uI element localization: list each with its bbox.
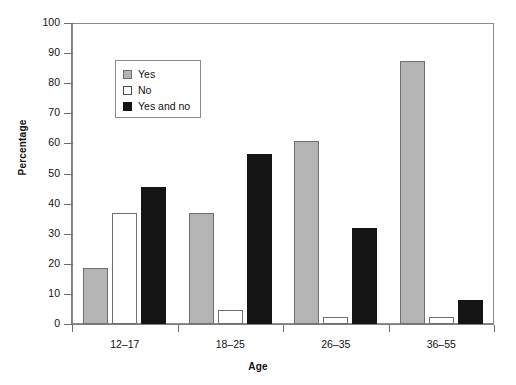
y-tick-label-50: 50 [22,167,60,179]
bar-26-35-no [323,317,348,324]
x-tick-0 [72,325,73,332]
legend-swatch-yes-icon [123,70,132,79]
bar-12-17-yes [83,268,108,324]
bar-chart: Percentage 0102030405060708090100 12–171… [0,0,516,385]
bar-12-17-no [112,213,137,324]
bar-26-35-yes-and-no [352,228,377,324]
legend-label-yes: Yes [138,68,155,80]
bar-36-55-yes [400,61,425,324]
x-tick-label-2: 26–35 [291,338,381,350]
y-tick-label-80: 80 [22,76,60,88]
bar-18-25-yes [189,213,214,324]
y-tick-label-10: 10 [22,287,60,299]
bar-12-17-yes-and-no [141,187,166,324]
y-tick-label-70: 70 [22,106,60,118]
bar-18-25-no [218,310,243,324]
bar-18-25-yes-and-no [247,154,272,324]
y-tick-label-0: 0 [22,317,60,329]
x-tick-label-3: 36–55 [396,338,486,350]
y-tick-label-90: 90 [22,46,60,58]
y-tick-label-20: 20 [22,257,60,269]
x-tick-end [494,325,495,332]
legend-swatch-yes-and-no-icon [123,102,132,111]
legend-item-yes-and-no: Yes and no [123,98,194,114]
x-tick-label-0: 12–17 [80,338,170,350]
x-tick-2 [283,325,284,332]
x-tick-1 [178,325,179,332]
x-tick-3 [389,325,390,332]
y-tick-label-30: 30 [22,227,60,239]
legend: Yes No Yes and no [115,60,201,118]
y-tick-label-40: 40 [22,197,60,209]
x-axis-title: Age [0,361,516,372]
bar-36-55-yes-and-no [458,300,483,324]
y-tick-label-60: 60 [22,136,60,148]
bar-36-55-no [429,317,454,324]
x-tick-label-1: 18–25 [185,338,275,350]
bar-26-35-yes [294,141,319,324]
y-tick-label-100: 100 [22,16,60,28]
legend-item-no: No [123,82,194,98]
legend-label-yes-and-no: Yes and no [138,100,190,112]
legend-label-no: No [138,84,151,96]
legend-swatch-no-icon [123,86,132,95]
legend-item-yes: Yes [123,66,194,82]
